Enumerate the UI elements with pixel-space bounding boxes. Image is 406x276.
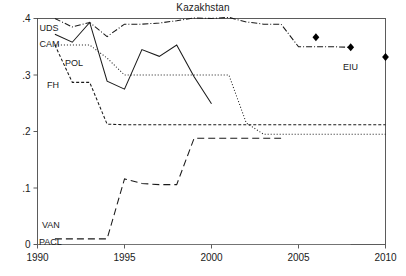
series-label-cam: CAM [40, 39, 60, 49]
y-axis-tick-label: .3 [22, 70, 31, 81]
series-label-pol: POL [65, 58, 83, 68]
series-line-uds [55, 17, 351, 47]
series-line-fh [55, 45, 386, 125]
eiu-marker [313, 33, 320, 41]
x-axis-tick-label: 2005 [287, 252, 310, 263]
series-label-uds: UDS [40, 23, 59, 33]
x-axis-tick-label: 1990 [26, 252, 49, 263]
chart-container: Kazakhstan 0.1.2.3.419901995200020052010… [0, 0, 406, 276]
y-axis-tick-label: .1 [22, 183, 31, 194]
eiu-marker [347, 43, 354, 51]
chart-plot-area: 0.1.2.3.419901995200020052010UDSCAMPOLFH… [0, 0, 406, 276]
series-label-fh: FH [47, 80, 59, 90]
series-label-eiu: EIU [343, 62, 358, 72]
y-axis-tick-label: .4 [22, 13, 31, 24]
series-line-van [55, 138, 281, 239]
y-axis-tick-label: 0 [25, 239, 31, 250]
eiu-marker [382, 53, 389, 61]
series-line-pol [55, 45, 386, 134]
series-label-van: VAN [42, 220, 60, 230]
plot-frame [38, 19, 386, 245]
series-label-pacl: PACL [39, 237, 62, 247]
x-axis-tick-label: 2000 [200, 252, 223, 263]
x-axis-tick-label: 1995 [113, 252, 136, 263]
x-axis-tick-label: 2010 [374, 252, 397, 263]
y-axis-tick-label: .2 [22, 126, 31, 137]
